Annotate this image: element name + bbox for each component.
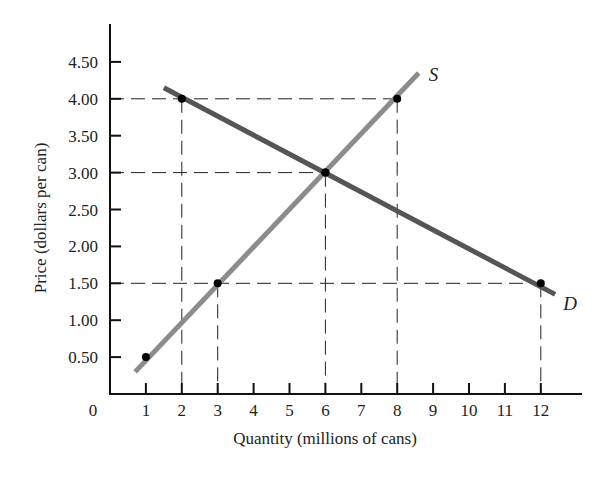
y-tick-label: 1.00 [68,311,98,330]
x-tick-label: 5 [285,401,294,420]
demand-point [178,95,186,103]
demand-point [321,169,329,177]
demand-curve-label: D [562,293,577,314]
axis-labels: 0.501.001.502.002.503.003.504.004.501234… [31,53,577,448]
x-tick-label: 6 [321,401,330,420]
x-tick-label: 10 [461,401,478,420]
y-tick-label: 4.00 [68,90,98,109]
y-tick-label: 2.50 [68,201,98,220]
x-tick-label: 9 [429,401,438,420]
x-tick-label: 7 [357,401,366,420]
y-tick-label: 4.50 [68,53,98,72]
supply-demand-chart: 0.501.001.502.002.503.003.504.004.501234… [0,0,603,478]
reference-dashed-lines [110,99,541,394]
axes [109,24,582,395]
y-tick-label: 0.50 [68,348,98,367]
x-tick-label: 4 [249,401,258,420]
x-tick-label: 8 [393,401,402,420]
x-tick-label: 1 [142,401,151,420]
supply-point [142,353,150,361]
supply-point [214,279,222,287]
y-tick-label: 2.00 [68,237,98,256]
y-tick-label: 1.50 [68,274,98,293]
x-tick-label: 3 [213,401,222,420]
origin-label: 0 [89,401,98,420]
x-tick-label: 11 [497,401,513,420]
y-tick-label: 3.00 [68,164,98,183]
y-axis-title: Price (dollars per can) [31,143,50,294]
demand-point [537,279,545,287]
data-points [142,95,545,361]
y-tick-label: 3.50 [68,127,98,146]
supply-point [393,95,401,103]
x-tick-label: 12 [532,401,549,420]
demand-curve [164,88,555,295]
x-axis-title: Quantity (millions of cans) [233,429,417,448]
x-tick-label: 2 [178,401,187,420]
supply-curve [135,73,419,372]
series-lines [135,73,555,372]
supply-curve-label: S [429,64,439,85]
